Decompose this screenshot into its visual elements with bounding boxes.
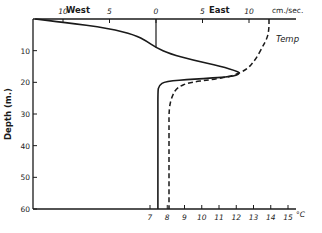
velocity-curve — [35, 19, 239, 209]
depth-axis-label: Depth (m.) — [3, 88, 13, 140]
svg-text:30: 30 — [20, 110, 30, 119]
svg-text:20: 20 — [20, 78, 30, 87]
svg-text:12: 12 — [231, 213, 241, 222]
svg-text:15: 15 — [283, 213, 293, 222]
svg-text:10: 10 — [197, 213, 207, 222]
svg-text:50: 50 — [20, 173, 30, 182]
temperature-units-label: °C — [296, 210, 306, 219]
west-label: West — [66, 5, 90, 15]
svg-text:10: 10 — [20, 47, 30, 56]
depth-axis-ticks: 102030405060 — [20, 47, 37, 214]
svg-text:40: 40 — [20, 142, 30, 151]
velocity-units-label: cm./sec. — [272, 6, 303, 15]
svg-text:13: 13 — [249, 213, 259, 222]
depth-profile-chart: 1050510 789101112131415 102030405060 Wes… — [0, 0, 322, 233]
east-label: East — [209, 5, 230, 15]
svg-text:9: 9 — [182, 213, 187, 222]
svg-text:60: 60 — [20, 205, 30, 214]
svg-text:14: 14 — [266, 213, 276, 222]
svg-text:5: 5 — [107, 7, 112, 16]
temperature-curve — [169, 19, 269, 209]
axes — [33, 19, 296, 209]
svg-text:7: 7 — [148, 213, 153, 222]
svg-text:11: 11 — [214, 213, 224, 222]
svg-text:8: 8 — [165, 213, 170, 222]
temp-series-label: Temp — [276, 34, 299, 44]
svg-text:5: 5 — [200, 7, 205, 16]
svg-text:10: 10 — [244, 7, 254, 16]
svg-text:0: 0 — [154, 7, 159, 16]
